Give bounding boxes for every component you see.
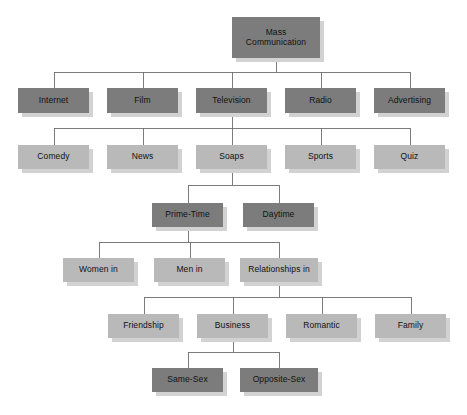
node-mass-communication[interactable]: Mass Communication: [232, 17, 320, 58]
node-radio[interactable]: Radio: [285, 88, 356, 113]
node-internet[interactable]: Internet: [18, 88, 89, 113]
node-friendship[interactable]: Friendship: [108, 314, 179, 338]
node-sports[interactable]: Sports: [285, 145, 356, 169]
node-same-sex[interactable]: Same-Sex: [152, 368, 223, 392]
node-news[interactable]: News: [107, 145, 178, 169]
connector-lines: [0, 0, 467, 415]
mass-communication-tree-diagram: Mass CommunicationInternetFilmTelevision…: [0, 0, 467, 415]
node-soaps[interactable]: Soaps: [196, 145, 267, 169]
node-family[interactable]: Family: [375, 314, 446, 338]
node-relationships-in[interactable]: Relationships in: [240, 258, 318, 282]
node-television[interactable]: Television: [196, 88, 267, 113]
node-opposite-sex[interactable]: Opposite-Sex: [240, 368, 318, 392]
node-prime-time[interactable]: Prime-Time: [152, 203, 223, 227]
node-business[interactable]: Business: [197, 314, 268, 338]
node-daytime[interactable]: Daytime: [243, 203, 314, 227]
node-romantic[interactable]: Romantic: [286, 314, 357, 338]
node-advertising[interactable]: Advertising: [374, 88, 445, 113]
node-women-in[interactable]: Women in: [63, 258, 134, 282]
node-film[interactable]: Film: [107, 88, 178, 113]
node-men-in[interactable]: Men in: [154, 258, 225, 282]
node-comedy[interactable]: Comedy: [18, 145, 89, 169]
node-quiz[interactable]: Quiz: [374, 145, 445, 169]
